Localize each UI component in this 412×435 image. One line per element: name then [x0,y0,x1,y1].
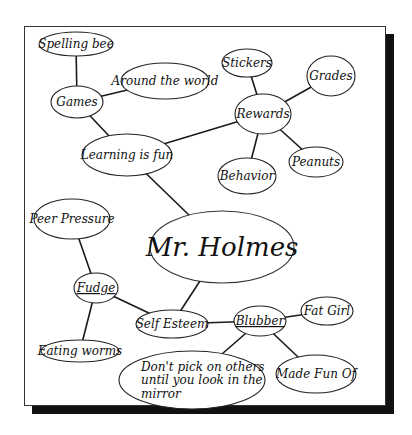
node-label: Self Esteem [136,317,209,331]
node-peer-pressure: Peer Pressure [28,199,114,239]
concept-map: Spelling beeGamesAround the worldLearnin… [0,0,412,435]
node-label: Learning is fun [80,148,173,162]
node-mr-holmes: Mr. Holmes [145,211,299,283]
node-behavior: Behavior [218,158,276,194]
node-around-the-world: Around the world [111,63,219,99]
node-rewards: Rewards [235,94,291,134]
node-dont-pick: Don't pick on othersuntil you look in th… [119,351,265,409]
node-label: Peer Pressure [28,212,114,226]
node-stickers: Stickers [222,49,272,77]
node-label: Fat Girl [303,304,350,318]
node-label: Mr. Holmes [145,232,299,262]
node-label: Games [56,95,97,109]
diagram-canvas: Spelling beeGamesAround the worldLearnin… [0,0,412,435]
node-label: Grades [309,69,352,83]
node-fat-girl: Fat Girl [301,297,353,325]
node-label: Spelling bee [38,37,114,51]
node-label: Peanuts [291,155,340,169]
node-spelling-bee: Spelling bee [38,32,114,56]
node-blubber: Blubber [234,306,286,336]
node-label: Fudge [76,281,116,295]
node-self-esteem: Self Esteem [136,310,209,338]
node-grades: Grades [307,56,355,96]
node-label: Blubber [235,314,286,328]
node-fudge: Fudge [74,273,118,303]
node-label: Stickers [222,56,272,70]
node-label: Eating worms [37,344,123,358]
node-label: Behavior [219,169,276,183]
node-made-fun-of: Made Fun Of [275,355,358,393]
node-peanuts: Peanuts [289,147,343,177]
node-label: Made Fun Of [275,367,358,381]
node-eating-worms: Eating worms [37,340,123,362]
node-label: Around the world [111,74,219,88]
node-label: Rewards [235,107,289,121]
node-learning-is-fun: Learning is fun [80,134,173,176]
node-games: Games [51,86,103,118]
